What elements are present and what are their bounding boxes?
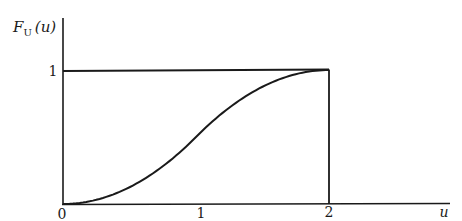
y-axis-label: FU(u) <box>12 18 56 38</box>
horizontal-line-one <box>63 70 329 72</box>
x-tick-label-1: 1 <box>197 205 206 221</box>
cdf-chart: FU(u) 1 0 1 2 u <box>0 0 462 221</box>
x-axis-label: u <box>439 204 448 220</box>
x-tick-label-0: 0 <box>58 206 67 221</box>
y-label-arg: (u) <box>35 18 57 36</box>
y-tick-label-1: 1 <box>49 63 58 79</box>
x-axis <box>62 204 450 205</box>
y-label-main: F <box>12 18 24 36</box>
cdf-curve <box>63 70 329 204</box>
y-label-sub: U <box>23 27 31 38</box>
x-tick-label-2: 2 <box>325 204 334 220</box>
